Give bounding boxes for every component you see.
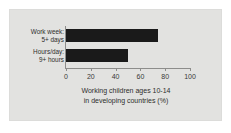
category-label-hours-day: Hours/day: 9+ hours: [4, 48, 64, 63]
x-axis-tick: [140, 68, 141, 71]
x-axis-tick: [116, 68, 117, 71]
category-axis: Work week: 5+ days Hours/day: 9+ hours: [2, 0, 64, 133]
category-label-work-week: Work week: 5+ days: [4, 28, 64, 43]
x-axis-tick: [66, 68, 67, 71]
category-label-line: 9+ hours: [4, 56, 64, 64]
x-axis-tick-label: 100: [175, 72, 205, 81]
x-axis-title: Working children ages 10-14 in developin…: [56, 86, 196, 106]
category-label-line: Work week:: [4, 28, 64, 36]
category-label-line: Hours/day:: [4, 48, 64, 56]
axis-origin-line: [65, 26, 66, 68]
chart-figure: Work week: 5+ days Hours/day: 9+ hours 0…: [0, 0, 231, 133]
x-axis-line: [65, 68, 191, 69]
x-axis-tick: [190, 68, 191, 71]
x-axis-tick: [91, 68, 92, 71]
plot-area: [66, 26, 190, 68]
category-label-line: 5+ days: [4, 36, 64, 44]
x-axis-tick: [165, 68, 166, 71]
bar-work-week: [66, 29, 158, 42]
bar-hours-day: [66, 49, 128, 62]
x-axis-title-line: in developing countries (%): [56, 96, 196, 106]
x-axis-title-line: Working children ages 10-14: [56, 86, 196, 96]
